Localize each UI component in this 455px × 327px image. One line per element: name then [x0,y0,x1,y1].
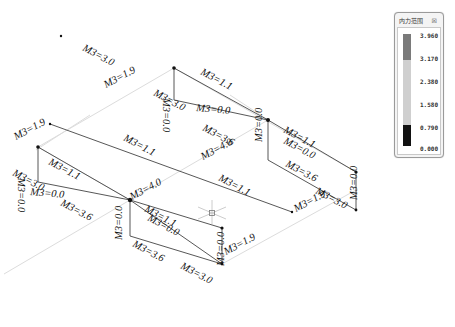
moment-label: M3=3.0 [80,42,117,69]
moment-labels: M3=3.0M3=1.1M3=1.9M3=0.0M3=0.0M3=3.0M3=3… [10,42,359,287]
moment-label: M3=0.0 [113,205,124,241]
legend-value: 2.380 [420,78,438,85]
origin-axis-icon [198,200,226,224]
moment-label: M3=1.9 [101,64,138,91]
moment-label: M3=4.0 [127,176,164,203]
moment-label: M3=1.1 [46,156,82,182]
moment-label: M3=1.1 [216,172,252,198]
moment-label: M3=3.0 [10,167,47,194]
moment-label: M3=3.6 [283,158,320,185]
legend-value: 0.000 [420,145,438,152]
legend-value: 3.170 [420,55,438,62]
legend-panel[interactable]: 内力范围 ☒ 3.960 3.170 2.380 1.580 0.790 0.0… [394,12,444,158]
structural-moment-diagram: M3=3.0M3=1.1M3=1.9M3=0.0M3=0.0M3=3.0M3=3… [0,0,455,327]
legend-value: 3.960 [420,32,438,39]
legend-band-high [403,34,411,60]
member-lines [38,68,356,264]
moment-label: M3=1.9 [11,116,48,143]
moment-label: M3=3.6 [58,197,95,224]
close-icon[interactable]: ☒ [432,15,437,26]
legend-scale: 3.960 3.170 2.380 1.580 0.790 0.000 [397,27,441,155]
moment-label: M3=1.1 [121,132,157,158]
moment-label: M3=0.0 [195,102,232,116]
moment-label: M3=1.1 [198,66,234,92]
legend-band-mid [403,60,411,125]
moment-label: M3=0.0 [215,231,226,267]
legend-panel-titlebar[interactable]: 内力范围 ☒ [397,15,441,26]
moment-label: M3=3.0 [178,260,215,287]
moment-label: M3=0.0 [253,107,264,143]
legend-band-low [403,125,411,146]
moment-label: M3=1.9 [221,231,258,258]
legend-value: 1.580 [420,101,438,108]
legend-value: 0.790 [420,124,438,131]
moment-label: M3=0.0 [348,165,359,201]
legend-panel-title: 内力范围 [399,15,423,26]
